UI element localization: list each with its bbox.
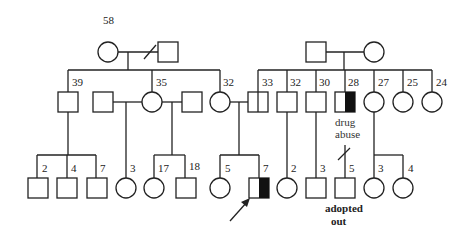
age-label: 24 [436,76,448,88]
age-label: 2 [42,162,48,174]
age-label: 4 [408,162,414,174]
age-label: 58 [103,14,115,26]
age-label: 28 [348,76,360,88]
affected-half-fill [259,178,269,198]
gen2-female-24 [422,92,442,112]
age-label: 30 [319,76,331,88]
age-label: 25 [407,76,419,88]
age-label: 3 [378,162,384,174]
pedigree-svg: 58 39 35 32 33 32 30 28 drug abuse 27 25… [0,0,464,239]
affected-half-fill [345,92,355,112]
gen3-female-3 [116,178,136,198]
age-label: 7 [263,162,269,174]
gen1-right-female [364,42,384,62]
gen3-female-2 [277,178,297,198]
gen2-female-32 [210,92,230,112]
gen2-female-27 [364,92,384,112]
gen3-male-4 [57,178,77,198]
age-label: 5 [349,162,355,174]
gen3-male-5-adopted-out [335,178,355,198]
age-label: 3 [130,162,136,174]
gen1-right-male [306,42,326,62]
gen2-female-35 [142,92,162,112]
note-abuse: abuse [335,128,360,140]
gen2-male-30 [306,92,326,112]
gen3-male-7 [87,178,107,198]
gen1-left-male [158,42,178,62]
age-label: 3 [320,162,326,174]
gen3-male-2 [28,178,48,198]
gen3-female-5 [210,178,230,198]
age-label: 27 [378,76,390,88]
adoption-slash [338,148,350,160]
gen2-female-25 [393,92,413,112]
note-out: out [331,215,347,227]
age-label: 35 [156,76,168,88]
note-drug: drug [335,116,356,128]
gen2-male-32 [277,92,297,112]
age-label: 32 [290,76,301,88]
age-label: 7 [100,162,106,174]
gen3-male-18 [176,178,196,198]
gen2-spouse-male [93,92,113,112]
age-label: 39 [72,76,84,88]
pedigree-diagram: 58 39 35 32 33 32 30 28 drug abuse 27 25… [0,0,464,239]
gen3-male-3 [306,178,326,198]
gen3-female-4 [393,178,413,198]
gen2-spouse-male [182,92,202,112]
gen3-female-17 [144,178,164,198]
note-adopted: adopted [325,202,363,214]
gen1-left-female [98,42,118,62]
age-label: 18 [189,160,201,172]
age-label: 33 [262,76,274,88]
age-label: 4 [71,162,77,174]
age-label: 2 [291,162,297,174]
age-label: 5 [225,162,231,174]
age-label: 17 [158,162,170,174]
gen3-female-3b [364,178,384,198]
age-label: 32 [223,76,234,88]
gen2-male-39 [58,92,78,112]
proband-arrow-head [241,198,250,207]
